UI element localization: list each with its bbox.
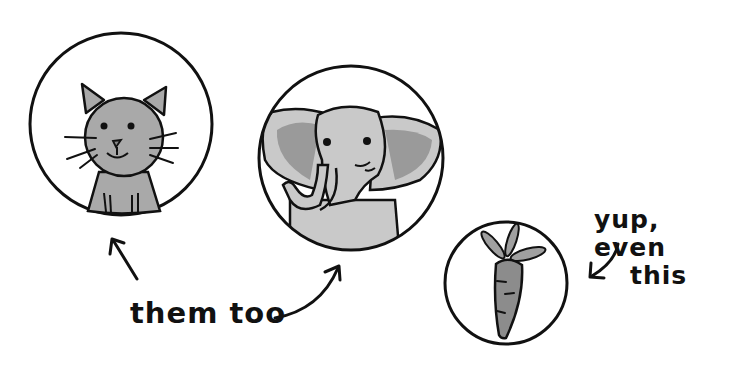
elephant-figure bbox=[259, 66, 443, 260]
cat-figure bbox=[30, 33, 212, 215]
caption-yup-line1: yup, even bbox=[594, 205, 666, 262]
caption-them-too: them too bbox=[130, 296, 286, 330]
carrot-figure bbox=[445, 222, 567, 344]
caption-yup-line2: this bbox=[594, 262, 737, 290]
arrow-to-cat-icon bbox=[110, 239, 137, 279]
caption-yup-even-this: yup, even this bbox=[594, 206, 737, 290]
illustration bbox=[0, 0, 737, 371]
